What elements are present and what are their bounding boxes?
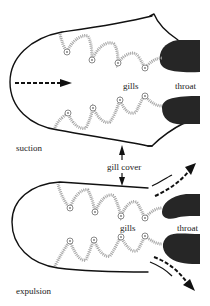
expulsion-outflow-upper-arrow-icon [152,163,196,196]
expulsion-gills-lower [55,233,162,266]
suction-gill-cover-bottom [148,122,186,146]
gill-respiration-diagram: gills throat suction gill cover [0,0,210,306]
suction-inflow-arrow-icon [15,79,72,87]
suction-gills-lower [55,93,162,128]
expulsion-gills-label: gills [120,223,136,233]
gill-cover-down-arrow-icon [119,177,125,186]
expulsion-panel: gills throat expulsion [12,163,200,296]
suction-throat-lower [162,96,200,124]
suction-throat-upper [160,40,200,72]
expulsion-gills-upper [58,184,162,221]
suction-throat-label: throat [175,81,196,91]
expulsion-throat-label: throat [177,223,198,233]
gill-cover-label: gill cover [107,162,141,172]
gill-cover-up-arrow-icon [119,145,125,155]
suction-gills-upper [60,34,162,71]
suction-label: suction [16,143,42,153]
expulsion-throat-lower [163,234,200,265]
expulsion-throat-upper [162,194,200,219]
gill-cover-indicator: gill cover [107,145,141,186]
suction-gills-label: gills [123,81,139,91]
expulsion-label: expulsion [16,286,51,296]
suction-gill-cover-top [150,14,178,40]
suction-panel: gills throat suction [10,14,200,153]
